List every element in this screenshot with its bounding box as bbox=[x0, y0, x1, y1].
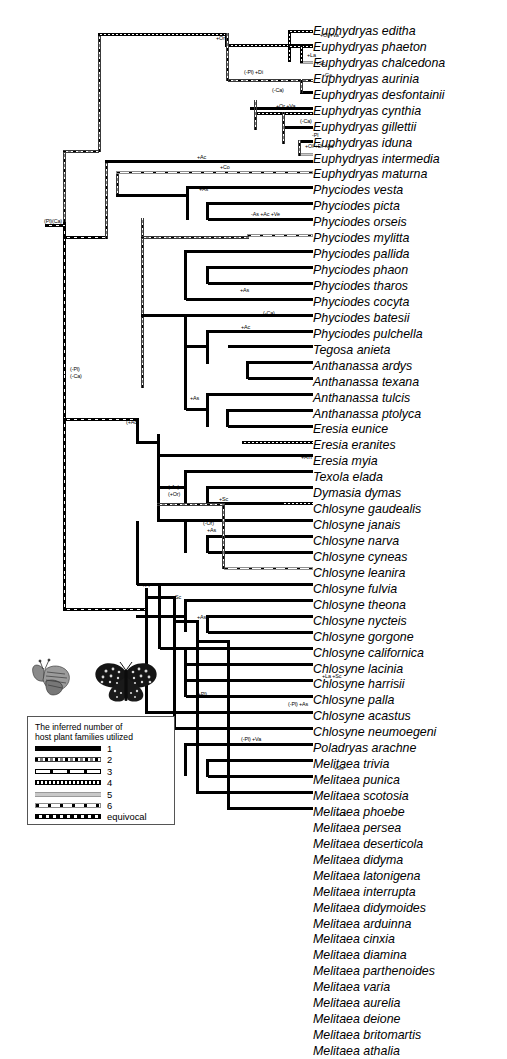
taxon-label: Melitaea deione bbox=[313, 1012, 507, 1028]
branch-chl-nyct-spine bbox=[136, 521, 139, 585]
taxon-label: Melitaea cinxia bbox=[313, 932, 507, 948]
branch-eu-chal-spine bbox=[300, 45, 303, 63]
legend-swatch-equivocal bbox=[35, 814, 101, 819]
taxon-label: Chlosyne gorgone bbox=[313, 630, 507, 646]
branch-mel-phoebe bbox=[208, 775, 313, 778]
node-label-n-plus-co: +Co bbox=[220, 165, 230, 171]
branch-anth-texana bbox=[228, 345, 313, 348]
taxon-label: Phyciodes pallida bbox=[313, 247, 507, 263]
branch-mel-upper-stem bbox=[145, 596, 175, 599]
branch-chl-californica bbox=[208, 615, 313, 618]
legend-swatch-3 bbox=[35, 769, 101, 774]
taxon-label: Euphydryas chalcedona bbox=[313, 56, 507, 72]
taxon-label: Anthanassa texana bbox=[313, 375, 507, 391]
branch-ph-cocyta bbox=[208, 266, 313, 269]
taxon-label: Dymasia dymas bbox=[313, 486, 507, 502]
taxon-label: Melitaea didyma bbox=[313, 853, 507, 869]
node-label-n-plus-ac-1: +Ac bbox=[197, 155, 206, 161]
node-label-n-par-plus-pl: (+Pl) bbox=[196, 692, 207, 698]
branch-chl-cal-spine bbox=[206, 615, 209, 633]
branch-chl-cyn-spine bbox=[184, 519, 187, 553]
node-label-n-plus-or-2: (+Or) bbox=[168, 492, 180, 498]
taxon-label: Eresia eunice bbox=[313, 422, 507, 438]
branch-chl-theona-stem bbox=[157, 503, 224, 506]
branch-ph-orseis-grp bbox=[116, 194, 188, 197]
branch-ph-cocyta-spine bbox=[206, 266, 209, 284]
taxon-label: Euphydryas phaeton bbox=[313, 40, 507, 56]
branch-eu-gil-spine bbox=[254, 100, 257, 130]
taxon-label: Melitaea persea bbox=[313, 821, 507, 837]
butterfly-side-view-icon bbox=[27, 657, 81, 705]
taxon-label: Melitaea britomartis bbox=[313, 1028, 507, 1044]
branch-mel-des-spine bbox=[227, 640, 230, 810]
branch-chl-harr-spine bbox=[158, 583, 161, 649]
branch-anth-tulcis-spine bbox=[246, 361, 249, 379]
taxon-label: Melitaea aurelia bbox=[313, 996, 507, 1012]
branch-chl-mid-spine bbox=[157, 454, 160, 522]
node-label-n-plus-as-3: +As bbox=[190, 396, 199, 402]
node-label-n-minuspl-di: (-Pl) +Di bbox=[244, 70, 263, 76]
taxon-label: Phyciodes tharos bbox=[313, 279, 507, 295]
legend-label: 4 bbox=[107, 777, 112, 788]
legend-swatch-5 bbox=[35, 792, 101, 797]
taxon-label: Euphydryas desfontainii bbox=[313, 88, 507, 104]
branch-ph-mylitta bbox=[208, 202, 313, 205]
taxon-label: Phyciodes pulchella bbox=[313, 327, 507, 343]
legend-item: 3 bbox=[35, 766, 168, 777]
legend-swatch-6 bbox=[35, 803, 101, 808]
legend-swatch-4 bbox=[35, 780, 101, 785]
branch-chl-theona-spine bbox=[222, 503, 225, 569]
taxon-label: Chlosyne harrisii bbox=[313, 677, 507, 693]
node-label-n-plus-as-4: +As bbox=[207, 528, 216, 534]
node-label-n-minusca-2: (-Ca) bbox=[300, 119, 312, 125]
branch-ph-phaon-stem bbox=[141, 236, 249, 239]
taxon-label: Euphydryas gillettii bbox=[313, 120, 507, 136]
node-label-n-plus-as-2: +As bbox=[240, 288, 249, 294]
branch-eresia-eranites bbox=[228, 409, 313, 412]
taxon-label: Melitaea arduinna bbox=[313, 917, 507, 933]
taxon-label: Melitaea interrupta bbox=[313, 885, 507, 901]
legend-label: 1 bbox=[107, 743, 112, 754]
branch-backbone-upper bbox=[63, 150, 66, 222]
node-label-n-minus-ac: (-Ac) bbox=[168, 485, 179, 491]
legend-item: 5 bbox=[35, 788, 168, 799]
node-label-n-plus-as-5: +As bbox=[197, 615, 206, 621]
branch-texola-dym-spine bbox=[157, 434, 160, 456]
branch-chl-theona bbox=[224, 567, 313, 570]
branch-mel-deserticola bbox=[229, 807, 313, 810]
branch-ph-vesta bbox=[105, 160, 313, 163]
branch-mel-des-stem bbox=[196, 640, 229, 643]
taxon-label: Eresia eranites bbox=[313, 438, 507, 454]
node-label-root: (Pl)(Ca) bbox=[44, 219, 62, 225]
branch-chl-lacinia bbox=[208, 631, 313, 634]
taxon-label: Euphydryas aurinia bbox=[313, 72, 507, 88]
node-label-n-minus-or: (-Or) bbox=[203, 521, 214, 527]
taxon-label: Chlosyne cyneas bbox=[313, 550, 507, 566]
branch-chl-lea-spine bbox=[206, 535, 209, 553]
taxon-label: Chlosyne nycteis bbox=[313, 614, 507, 630]
branch-anth-group-spine bbox=[141, 246, 144, 388]
branch-eu-editha bbox=[288, 30, 313, 33]
branch-ph-orseis-spine bbox=[186, 186, 189, 220]
legend-item: equivocal bbox=[35, 811, 168, 822]
taxon-label: Phyciodes cocyta bbox=[313, 295, 507, 311]
taxon-label: Tegosa anieta bbox=[313, 343, 507, 359]
branch-euphydryas-spine bbox=[98, 33, 101, 152]
branch-ph-lower-spine bbox=[141, 218, 144, 248]
branch-anth-ptolyca bbox=[248, 377, 313, 380]
branch-anth-tulcis bbox=[248, 361, 313, 364]
branch-texola-elada bbox=[242, 441, 313, 444]
branch-chl-janais bbox=[208, 486, 313, 489]
taxon-label: Eresia myia bbox=[313, 454, 507, 470]
taxon-label: Melitaea trivia bbox=[313, 757, 507, 773]
node-label-n-as-ac-ve: -As +Ac +Ve bbox=[251, 212, 280, 218]
butterfly-dorsal-view-icon bbox=[93, 660, 159, 706]
branch-melitaea-backbone bbox=[63, 575, 66, 611]
legend-item: 6 bbox=[35, 800, 168, 811]
branch-chl-nycteis bbox=[137, 583, 313, 586]
taxon-label: Euphydryas intermedia bbox=[313, 152, 507, 168]
taxon-label: Euphydryas cynthia bbox=[313, 104, 507, 120]
branch-eresia-myia bbox=[228, 425, 313, 428]
node-label-n-minusca: (-Ca) bbox=[70, 374, 82, 380]
branch-chl-acastus bbox=[186, 679, 313, 682]
